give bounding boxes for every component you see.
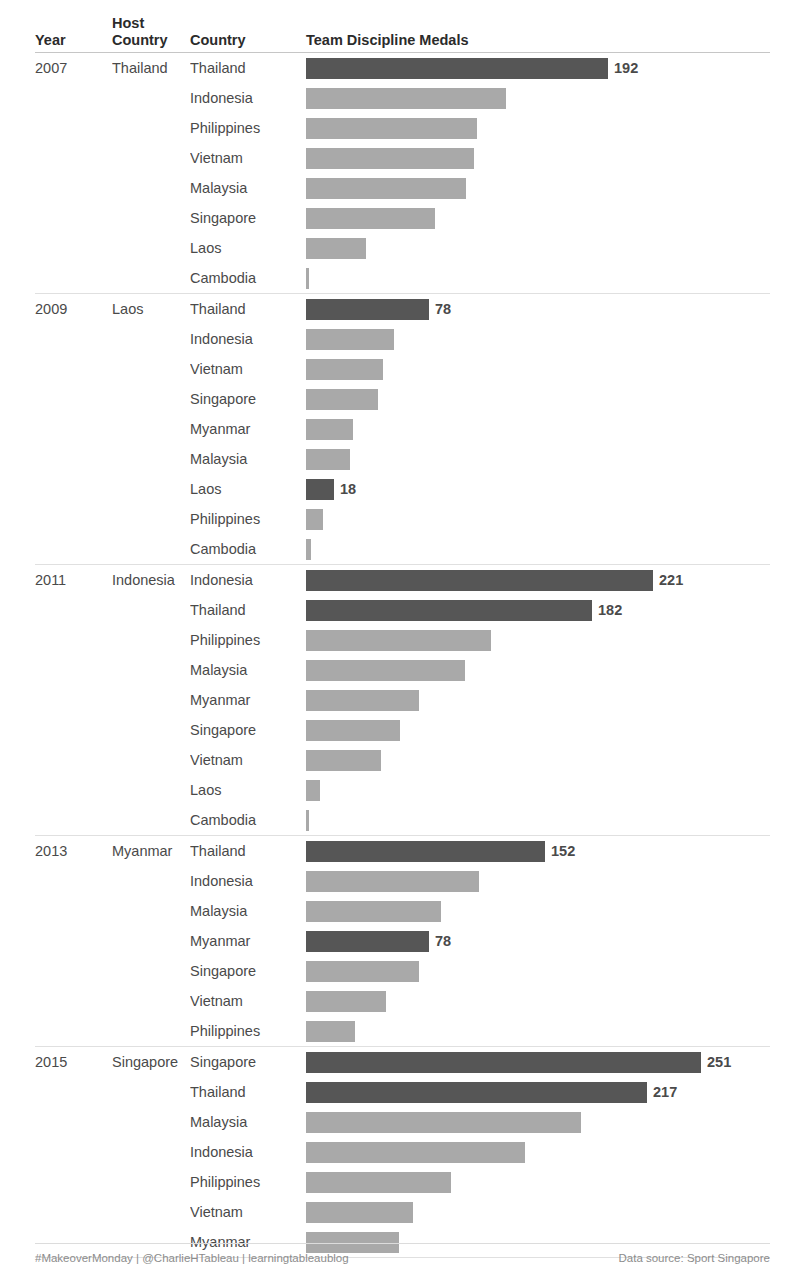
bar[interactable]: [306, 208, 435, 229]
table-row[interactable]: Laos: [35, 775, 770, 805]
bar[interactable]: [306, 600, 592, 621]
footer-divider: [35, 1243, 770, 1244]
table-row[interactable]: Malaysia: [35, 896, 770, 926]
bar[interactable]: [306, 991, 386, 1012]
bar[interactable]: [306, 509, 323, 530]
table-row[interactable]: Singapore: [35, 203, 770, 233]
bar[interactable]: [306, 148, 474, 169]
cell-bar: [306, 866, 770, 896]
table-row[interactable]: 2009LaosThailand78: [35, 294, 770, 324]
table-row[interactable]: Cambodia: [35, 263, 770, 293]
bar[interactable]: [306, 1202, 413, 1223]
table-row[interactable]: Indonesia: [35, 324, 770, 354]
table-row[interactable]: Singapore: [35, 956, 770, 986]
table-row[interactable]: Philippines: [35, 504, 770, 534]
table-row[interactable]: Cambodia: [35, 805, 770, 835]
table-row[interactable]: Indonesia: [35, 83, 770, 113]
bar[interactable]: [306, 88, 506, 109]
year-group: 2007ThailandThailand192IndonesiaPhilippi…: [0, 53, 792, 293]
table-row[interactable]: Vietnam: [35, 143, 770, 173]
bar[interactable]: [306, 1112, 581, 1133]
table-row[interactable]: 2013MyanmarThailand152: [35, 836, 770, 866]
cell-country: Thailand: [190, 300, 306, 318]
table-row[interactable]: Thailand217: [35, 1077, 770, 1107]
bar[interactable]: [306, 1021, 355, 1042]
cell-country: Malaysia: [190, 902, 306, 920]
bar[interactable]: [306, 1172, 451, 1193]
footer-credit: #MakeoverMonday | @CharlieHTableau | lea…: [35, 1252, 349, 1264]
table-row[interactable]: Philippines: [35, 1016, 770, 1046]
table-row[interactable]: Singapore: [35, 384, 770, 414]
table-row[interactable]: Singapore: [35, 715, 770, 745]
bar[interactable]: [306, 419, 353, 440]
cell-bar: [306, 956, 770, 986]
bar[interactable]: [306, 901, 441, 922]
bar[interactable]: [306, 660, 465, 681]
bar[interactable]: [306, 238, 366, 259]
bar[interactable]: [306, 841, 545, 862]
table-row[interactable]: Vietnam: [35, 354, 770, 384]
table-row[interactable]: 2007ThailandThailand192: [35, 53, 770, 83]
bar[interactable]: [306, 1082, 647, 1103]
cell-bar: 78: [306, 294, 770, 324]
cell-host-country: Singapore: [112, 1053, 190, 1071]
table-row[interactable]: 2015SingaporeSingapore251: [35, 1047, 770, 1077]
table-row[interactable]: Myanmar78: [35, 926, 770, 956]
bar-value-label: 251: [707, 1054, 731, 1070]
table-row[interactable]: Laos: [35, 233, 770, 263]
bar[interactable]: [306, 299, 429, 320]
table-row[interactable]: Malaysia: [35, 173, 770, 203]
table-row[interactable]: 2011IndonesiaIndonesia221: [35, 565, 770, 595]
table-row[interactable]: Philippines: [35, 1167, 770, 1197]
table-row[interactable]: Vietnam: [35, 1197, 770, 1227]
table-row[interactable]: Vietnam: [35, 745, 770, 775]
table-row[interactable]: Indonesia: [35, 866, 770, 896]
bar[interactable]: [306, 1232, 399, 1253]
table-row[interactable]: Malaysia: [35, 1107, 770, 1137]
bar[interactable]: [306, 750, 381, 771]
bar[interactable]: [306, 931, 429, 952]
bar[interactable]: [306, 449, 350, 470]
cell-bar: [306, 113, 770, 143]
bar[interactable]: [306, 720, 400, 741]
bar[interactable]: [306, 178, 466, 199]
bar[interactable]: [306, 630, 491, 651]
bar[interactable]: [306, 479, 334, 500]
bar[interactable]: [306, 810, 309, 831]
table-row[interactable]: Cambodia: [35, 534, 770, 564]
bar[interactable]: [306, 539, 311, 560]
cell-bar: 152: [306, 836, 770, 866]
cell-bar: 221: [306, 565, 770, 595]
table-row[interactable]: Philippines: [35, 625, 770, 655]
bar[interactable]: [306, 961, 419, 982]
bar[interactable]: [306, 329, 394, 350]
table-row[interactable]: Thailand182: [35, 595, 770, 625]
table-row[interactable]: Myanmar: [35, 414, 770, 444]
cell-country: Indonesia: [190, 872, 306, 890]
table-row[interactable]: Philippines: [35, 113, 770, 143]
cell-bar: [306, 83, 770, 113]
table-row[interactable]: Malaysia: [35, 655, 770, 685]
year-group: 2013MyanmarThailand152IndonesiaMalaysiaM…: [0, 836, 792, 1046]
bar[interactable]: [306, 570, 653, 591]
bar[interactable]: [306, 389, 378, 410]
cell-bar: [306, 1137, 770, 1167]
bar[interactable]: [306, 359, 383, 380]
table-row[interactable]: Myanmar: [35, 685, 770, 715]
bar[interactable]: [306, 1142, 525, 1163]
bar[interactable]: [306, 780, 320, 801]
bar[interactable]: [306, 58, 608, 79]
table-row[interactable]: Vietnam: [35, 986, 770, 1016]
bar[interactable]: [306, 118, 477, 139]
table-row[interactable]: Laos18: [35, 474, 770, 504]
bar[interactable]: [306, 871, 479, 892]
footer: #MakeoverMonday | @CharlieHTableau | lea…: [35, 1252, 770, 1264]
bar[interactable]: [306, 690, 419, 711]
cell-country: Indonesia: [190, 1143, 306, 1161]
table-row[interactable]: Malaysia: [35, 444, 770, 474]
cell-bar: [306, 685, 770, 715]
cell-country: Thailand: [190, 59, 306, 77]
bar[interactable]: [306, 1052, 701, 1073]
table-row[interactable]: Indonesia: [35, 1137, 770, 1167]
bar[interactable]: [306, 268, 309, 289]
